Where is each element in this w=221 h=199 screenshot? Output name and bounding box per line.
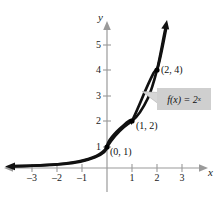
- x-tick-label--1: –1: [74, 172, 90, 183]
- marked-point-0-1: [104, 144, 109, 149]
- x-tick-label-2: 2: [151, 172, 163, 183]
- curve-arrow-icon: [161, 20, 169, 30]
- y-tick-label-5: 5: [90, 39, 101, 50]
- point-label-2-4: (2, 4): [161, 64, 183, 75]
- point-label-0-1: (0, 1): [110, 146, 132, 157]
- function-callout-base: f(x) = 2: [167, 94, 198, 105]
- x-tick-label--3: –3: [24, 172, 40, 183]
- function-callout-box: f(x) = 2x: [157, 88, 211, 110]
- x-axis-label: x: [208, 166, 213, 178]
- y-axis-label: y: [98, 11, 103, 23]
- y-axis-top-arrow-icon: [103, 21, 111, 30]
- y-tick-label-4: 4: [90, 64, 101, 75]
- exponential-function-figure: f(x) = 2x y x –3 –2 –1 1 2 3 1 2 3 4 5 (…: [0, 0, 221, 199]
- x-tick-label--2: –2: [49, 172, 65, 183]
- point-label-1-2: (1, 2): [136, 120, 158, 131]
- y-tick-label-1: 1: [90, 141, 101, 152]
- x-tick-label-3: 3: [176, 172, 188, 183]
- y-tick-label-2: 2: [90, 115, 101, 126]
- marked-point-1-2: [129, 118, 134, 123]
- y-tick-label-3: 3: [90, 90, 101, 101]
- function-callout-label: f(x) = 2x: [157, 88, 211, 110]
- x-axis-right-arrow-icon: [199, 164, 208, 172]
- marked-point-2-4: [154, 67, 159, 72]
- callout-leader-icon: [142, 92, 158, 104]
- x-tick-label-1: 1: [126, 172, 138, 183]
